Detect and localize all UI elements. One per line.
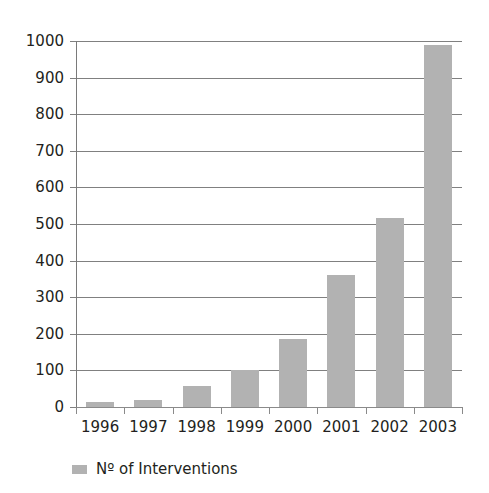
x-axis-tick-label: 2003 <box>408 420 468 435</box>
gridline <box>76 370 462 371</box>
gridline <box>76 41 462 42</box>
y-axis-tick <box>70 78 76 79</box>
y-axis-tick <box>70 224 76 225</box>
y-axis-tick <box>70 187 76 188</box>
y-axis-tick <box>70 151 76 152</box>
y-axis-tick-label: 400 <box>0 254 64 269</box>
y-axis-line <box>76 41 77 408</box>
y-axis-tick-label: 0 <box>0 400 64 415</box>
bar <box>183 386 211 407</box>
chart-legend: Nº of Interventions <box>72 462 238 477</box>
gridline <box>76 151 462 152</box>
gridline <box>76 334 462 335</box>
bar <box>376 218 404 407</box>
gridline <box>76 224 462 225</box>
y-axis-tick-label: 100 <box>0 363 64 378</box>
y-axis-tick <box>70 297 76 298</box>
gridline <box>76 261 462 262</box>
y-axis-tick-label: 1000 <box>0 34 64 49</box>
y-axis-tick-label: 500 <box>0 217 64 232</box>
x-axis-tick <box>76 408 77 414</box>
y-axis-tick-label: 800 <box>0 107 64 122</box>
y-axis-tick-label: 700 <box>0 144 64 159</box>
x-axis-tick <box>366 408 367 414</box>
x-axis-tick <box>221 408 222 414</box>
y-axis-tick-label: 200 <box>0 327 64 342</box>
bar-chart: 01002003004005006007008009001000 1996199… <box>0 0 489 493</box>
gridline <box>76 297 462 298</box>
y-axis-tick <box>70 41 76 42</box>
y-axis-tick-label: 300 <box>0 290 64 305</box>
bar <box>231 370 259 407</box>
y-axis-tick <box>70 334 76 335</box>
x-axis-tick <box>173 408 174 414</box>
gridline <box>76 78 462 79</box>
x-axis-tick <box>414 408 415 414</box>
legend-label: Nº of Interventions <box>96 462 238 477</box>
plot-area <box>76 41 462 407</box>
bar <box>424 45 452 407</box>
bar <box>134 400 162 407</box>
x-axis-tick <box>462 408 463 414</box>
y-axis-tick <box>70 261 76 262</box>
x-axis-tick <box>269 408 270 414</box>
gridline <box>76 187 462 188</box>
legend-swatch-icon <box>72 465 87 474</box>
y-axis-tick-label: 600 <box>0 180 64 195</box>
x-axis-tick <box>124 408 125 414</box>
gridline <box>76 114 462 115</box>
x-axis-tick <box>317 408 318 414</box>
y-axis-tick <box>70 114 76 115</box>
bar <box>327 275 355 407</box>
y-axis-tick <box>70 370 76 371</box>
y-axis-tick-label: 900 <box>0 71 64 86</box>
bar <box>279 339 307 407</box>
